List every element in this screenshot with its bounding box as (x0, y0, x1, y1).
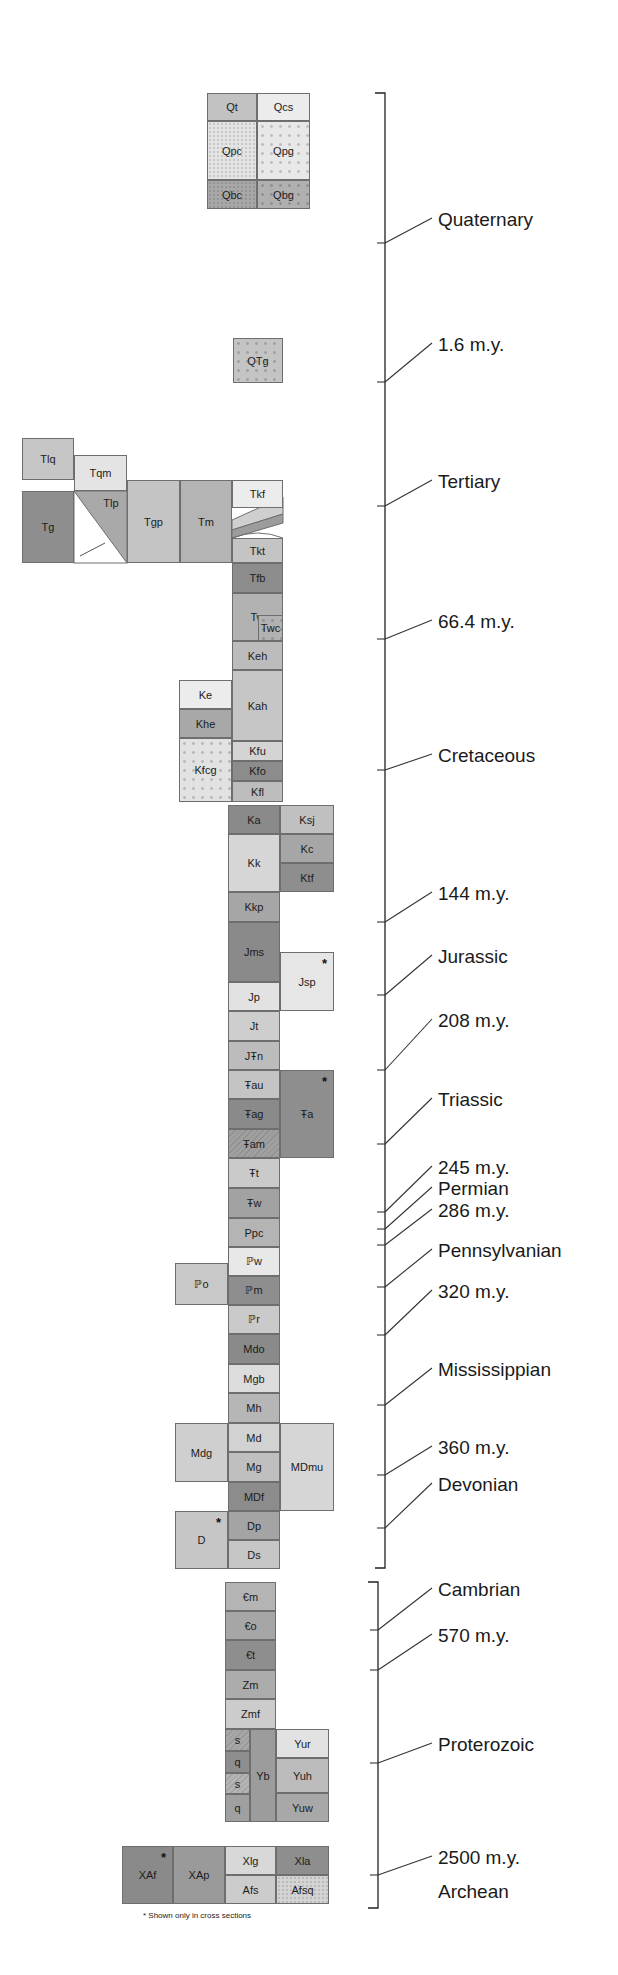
map-unit-label: Keh (248, 650, 268, 662)
map-unit-label: ℙo (194, 1278, 208, 1291)
map-unit-label: Jsp (298, 976, 315, 988)
map-unit-d: D* (175, 1511, 228, 1569)
time-label-144-m-y: 144 m.y. (438, 884, 509, 903)
map-unit-label: Xlg (243, 1855, 259, 1867)
map-unit-label: Ŧag (245, 1108, 264, 1120)
map-unit-qtg: QTg (233, 338, 283, 383)
map-unit-label: Zmf (241, 1708, 260, 1720)
map-unit-kfcg: Kfcg (179, 738, 232, 802)
map-unit-label: Jp (248, 991, 260, 1003)
map-unit-mdf: MDf (228, 1482, 280, 1511)
map-unit-ppc: Ppc (228, 1218, 280, 1247)
map-unit-ke: Ke (179, 680, 232, 709)
map-unit-label: ℙw (246, 1255, 262, 1268)
map-unit-label: Mdo (243, 1343, 264, 1355)
map-unit-yur: Yur (276, 1729, 329, 1758)
map-unit-yuw: Yuw (276, 1793, 329, 1822)
map-unit-yb: Yb (250, 1729, 276, 1822)
map-unit-ktf: Ktf (280, 863, 334, 892)
map-unit-label: Kfu (249, 745, 266, 757)
map-unit-mgb: Mgb (228, 1364, 280, 1393)
map-unit-ds: Ds (228, 1540, 280, 1569)
time-label-cretaceous: Cretaceous (438, 746, 535, 765)
map-unit-mdo: Mdo (228, 1334, 280, 1364)
map-unit-qcs: Qcs (257, 93, 310, 121)
time-label-2500-m-y: 2500 m.y. (438, 1848, 520, 1867)
map-unit-label: €o (244, 1620, 256, 1632)
time-label-tertiary: Tertiary (438, 472, 500, 491)
map-unit-jtrn: JŦn (228, 1041, 280, 1070)
map-unit-mg: Mg (228, 1452, 280, 1482)
map-unit-label: XAp (189, 1869, 210, 1881)
map-unit-label: Twc (261, 622, 281, 634)
map-unit-tqm: Tqm (74, 455, 127, 491)
map-unit-label: Ŧam (243, 1138, 265, 1150)
map-unit-tkt: Tkt (232, 538, 283, 563)
map-unit-ka: Ka (228, 805, 280, 834)
map-unit-label: Qpg (273, 145, 294, 157)
map-unit-label: Qbg (273, 189, 294, 201)
map-unit-label: Ŧa (301, 1108, 314, 1120)
map-unit-trw: Ŧw (228, 1188, 280, 1218)
time-label-66-4-m-y: 66.4 m.y. (438, 612, 515, 631)
time-label-320-m-y: 320 m.y. (438, 1282, 509, 1301)
map-unit-xap: XAp (173, 1846, 225, 1904)
map-unit-md: Md (228, 1423, 280, 1452)
map-unit-xlg: Xlg (225, 1846, 276, 1875)
map-unit-s1: s (225, 1729, 250, 1751)
map-unit-label: Mg (246, 1461, 261, 1473)
map-unit-label: Tkf (250, 488, 265, 500)
map-unit-kah: Kah (232, 670, 283, 741)
map-unit-s2: s (225, 1773, 250, 1794)
map-unit-ksj: Ksj (280, 805, 334, 834)
map-unit-label: Kc (301, 843, 314, 855)
map-unit-zmf: Zmf (225, 1699, 276, 1729)
map-unit-cm: €m (225, 1582, 276, 1611)
map-unit-qpc: Qpc (207, 121, 257, 180)
time-label-286-m-y: 286 m.y. (438, 1201, 509, 1220)
map-unit-label: Md (246, 1432, 261, 1444)
map-unit-ipm: ℙm (228, 1276, 280, 1305)
time-label-triassic: Triassic (438, 1090, 503, 1109)
time-label-archean: Archean (438, 1882, 509, 1901)
map-unit-label: XAf (139, 1869, 157, 1881)
map-unit-label: Ke (199, 689, 212, 701)
map-unit-label: Tkt (250, 545, 265, 557)
map-unit-label: Tg (42, 521, 55, 533)
map-unit-afs: Afs (225, 1875, 276, 1904)
map-unit-yuh: Yuh (276, 1758, 329, 1793)
map-unit-label: Ppc (245, 1227, 264, 1239)
map-unit-label: Tqm (90, 467, 112, 479)
map-unit-kk: Kk (228, 834, 280, 892)
map-unit-label: €m (243, 1591, 258, 1603)
map-unit-label: Ka (247, 814, 260, 826)
map-unit-label: ℙr (248, 1313, 260, 1326)
map-unit-ct: €t (225, 1640, 276, 1670)
map-unit-label: q (234, 1802, 240, 1814)
map-unit-tm: Tm (180, 480, 232, 563)
map-unit-mdmu: MDmu (280, 1423, 334, 1511)
map-unit-label: Yuw (292, 1802, 313, 1814)
map-unit-label: Ktf (300, 872, 313, 884)
map-unit-label: Mh (246, 1402, 261, 1414)
map-unit-label: Kfo (249, 765, 266, 777)
map-unit-label: Qcs (274, 101, 294, 113)
map-unit-label: s (235, 1734, 241, 1746)
map-unit-label: Ŧt (249, 1167, 259, 1179)
map-unit-xla: Xla (276, 1846, 329, 1875)
map-unit-qpg: Qpg (257, 121, 310, 180)
map-unit-twc: Twc (258, 615, 283, 641)
asterisk-icon: * (322, 1074, 327, 1089)
time-label-1-6-m-y: 1.6 m.y. (438, 335, 504, 354)
map-unit-khe: Khe (179, 709, 232, 738)
map-unit-label: Tm (198, 516, 214, 528)
map-unit-trag: Ŧag (228, 1099, 280, 1129)
map-unit-label: Xla (295, 1855, 311, 1867)
map-unit-tgp: Tgp (127, 480, 180, 563)
map-unit-kfo: Kfo (232, 761, 283, 781)
map-unit-label: Jt (250, 1020, 259, 1032)
map-unit-kc: Kc (280, 834, 334, 863)
map-unit-kkp: Kkp (228, 892, 280, 922)
map-unit-q1: q (225, 1751, 250, 1773)
map-unit-label: Kk (248, 857, 261, 869)
